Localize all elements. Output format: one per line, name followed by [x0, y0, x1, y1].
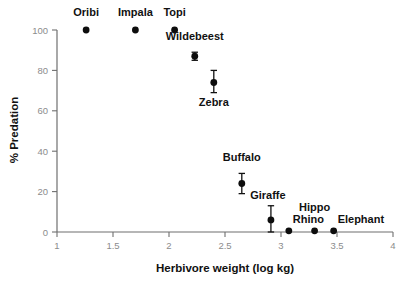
x-tick-label: 3: [278, 240, 283, 251]
data-point: [83, 27, 90, 34]
y-tick-label: 20: [37, 186, 48, 197]
data-point-label: Zebra: [199, 96, 230, 108]
data-point-label: Giraffe: [250, 189, 285, 201]
plot-canvas: 11.522.533.54020406080100 OribiImpalaTop…: [0, 0, 414, 284]
data-point: [311, 227, 318, 234]
x-tick-label: 3.5: [330, 240, 343, 251]
data-point: [285, 227, 292, 234]
data-point-label: Oribi: [73, 6, 99, 18]
data-point-label: Rhino: [293, 213, 324, 225]
y-tick-label: 0: [43, 227, 48, 238]
point-labels-group: OribiImpalaTopiWildebeestZebraBuffaloGir…: [73, 6, 384, 225]
tick-marks-group: [52, 30, 393, 237]
scatter-chart-figure: 11.522.533.54020406080100 OribiImpalaTop…: [0, 0, 414, 284]
data-point: [268, 216, 275, 223]
data-point: [238, 180, 245, 187]
axes-group: [57, 30, 393, 232]
y-tick-label: 80: [37, 65, 48, 76]
x-axis-title: Herbivore weight (log kg): [156, 262, 294, 274]
data-point: [330, 227, 337, 234]
x-tick-label: 4: [390, 240, 395, 251]
y-tick-label: 40: [37, 146, 48, 157]
x-tick-label: 2: [166, 240, 171, 251]
y-axis-title: % Predation: [8, 97, 20, 163]
x-tick-label: 1.5: [106, 240, 119, 251]
data-point-label: Buffalo: [223, 151, 261, 163]
y-tick-label: 60: [37, 105, 48, 116]
data-point-label: Wildebeest: [166, 30, 224, 42]
data-point-label: Topi: [163, 6, 185, 18]
x-tick-label: 1: [54, 240, 59, 251]
data-point-label: Hippo: [299, 201, 330, 213]
data-point: [191, 53, 198, 60]
x-tick-label: 2.5: [218, 240, 231, 251]
data-point: [210, 79, 217, 86]
data-point-label: Impala: [118, 6, 154, 18]
data-point-label: Elephant: [338, 213, 385, 225]
data-point: [132, 27, 139, 34]
y-tick-label: 100: [32, 25, 48, 36]
